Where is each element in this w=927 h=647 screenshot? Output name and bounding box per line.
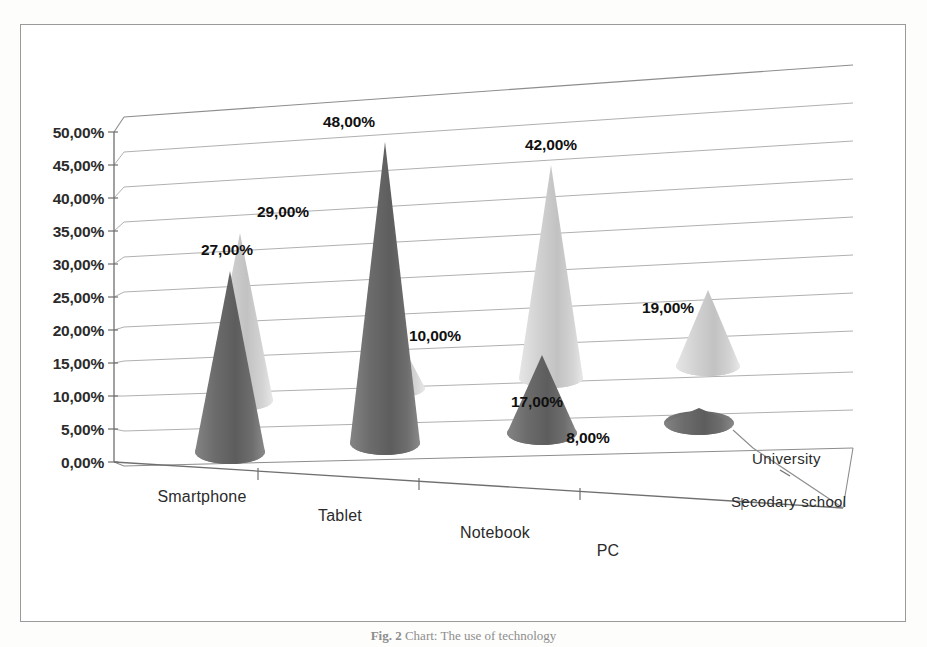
ytick-label-0: 0,00% — [61, 454, 104, 471]
data-label-university-tablet: 10,00% — [409, 327, 461, 344]
data-label-university-pc: 19,00% — [642, 299, 694, 316]
figure-caption: Fig. 2 Chart: The use of technology — [0, 628, 927, 647]
ytick-label-35: 35,00% — [53, 223, 105, 240]
ytick-label-25: 25,00% — [53, 289, 105, 306]
data-label-secondary-tablet: 48,00% — [323, 113, 375, 130]
ytick-label-40: 40,00% — [53, 190, 105, 207]
category-axis-labels: Smartphone Tablet Notebook PC — [157, 488, 619, 559]
data-label-university-notebook: 42,00% — [525, 136, 577, 153]
data-label-university-smartphone: 29,00% — [257, 203, 309, 220]
ytick-label-20: 20,00% — [53, 322, 105, 339]
data-label-secondary-smartphone: 27,00% — [201, 241, 253, 258]
cat-label-smartphone: Smartphone — [157, 488, 246, 505]
series-label-secondary-school: Secodary school — [731, 493, 846, 510]
ytick-label-45: 45,00% — [53, 157, 105, 174]
ytick-label-50: 50,00% — [53, 124, 105, 141]
ytick-label-5: 5,00% — [61, 421, 104, 438]
data-label-secondary-pc: 8,00% — [566, 429, 610, 446]
figure-root: 50,00% 45,00% 40,00% 35,00% 30,00% 25,00… — [0, 0, 927, 647]
figure-caption-label: Fig. 2 — [371, 628, 402, 643]
data-label-secondary-notebook: 17,00% — [511, 393, 563, 410]
cat-label-notebook: Notebook — [460, 524, 531, 541]
left-side-wall — [114, 117, 124, 466]
value-axis-labels: 50,00% 45,00% 40,00% 35,00% 30,00% 25,00… — [53, 124, 105, 471]
ytick-label-15: 15,00% — [53, 355, 105, 372]
cat-label-pc: PC — [597, 542, 620, 559]
ytick-label-30: 30,00% — [53, 256, 105, 273]
cat-label-tablet: Tablet — [318, 507, 362, 524]
figure-caption-text: Chart: The use of technology — [405, 628, 556, 643]
series-label-university: University — [752, 450, 821, 467]
cone-chart-3d: 50,00% 45,00% 40,00% 35,00% 30,00% 25,00… — [0, 0, 927, 647]
ytick-label-10: 10,00% — [53, 388, 105, 405]
